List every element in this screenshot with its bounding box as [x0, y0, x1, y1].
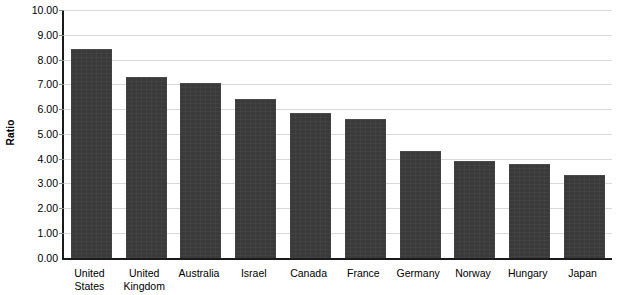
bar: [290, 113, 331, 258]
x-axis-category-label-line2: Kingdom: [117, 280, 172, 293]
y-axis-tick-label: 6.00: [16, 103, 58, 115]
bar: [454, 161, 495, 257]
bar: [71, 49, 112, 258]
x-axis-category-label: Japan: [555, 264, 610, 295]
x-axis-category-label-line1: Hungary: [508, 267, 548, 279]
bar: [400, 151, 441, 257]
x-axis-category-label-line1: Japan: [568, 267, 597, 279]
y-axis-tick-label: 7.00: [16, 78, 58, 90]
bar: [509, 164, 550, 258]
x-axis-line: [62, 258, 612, 261]
y-axis-tick-label: 3.00: [16, 177, 58, 189]
bar: [180, 83, 221, 257]
y-axis-tick-label: 0.00: [16, 252, 58, 264]
x-axis-category-label-line1: Germany: [397, 267, 440, 279]
y-axis-tick-label: 5.00: [16, 128, 58, 140]
x-axis-category-label-line1: Australia: [179, 267, 220, 279]
x-axis-category-label-line1: France: [347, 267, 380, 279]
x-axis-category-label-line1: Canada: [290, 267, 327, 279]
bar-slot: [502, 10, 557, 258]
bar: [235, 99, 276, 257]
x-axis-category-label: UnitedKingdom: [117, 264, 172, 295]
bar-chart: Ratio 10.009.008.007.006.005.004.003.002…: [0, 0, 619, 295]
x-axis-category-labels: UnitedStatesUnitedKingdomAustraliaIsrael…: [62, 264, 610, 295]
y-axis-tick-label: 1.00: [16, 227, 58, 239]
x-axis-category-label: France: [336, 264, 391, 295]
bar-slot: [283, 10, 338, 258]
bar-slot: [393, 10, 448, 258]
bar-slot: [174, 10, 229, 258]
bar-slot: [557, 10, 612, 258]
bar: [564, 175, 605, 258]
bar-slot: [64, 10, 119, 258]
x-axis-category-label-line1: United: [129, 267, 159, 279]
bar-series: [64, 10, 612, 258]
x-axis-category-label: Hungary: [500, 264, 555, 295]
bar-slot: [338, 10, 393, 258]
x-axis-category-label-line1: Israel: [241, 267, 267, 279]
y-axis-tick-label: 2.00: [16, 202, 58, 214]
y-axis-tick-label: 9.00: [16, 29, 58, 41]
x-axis-category-label-line1: Norway: [455, 267, 491, 279]
plot-area: [62, 10, 612, 260]
y-axis-tick-label: 4.00: [16, 153, 58, 165]
x-axis-category-label-line2: States: [62, 280, 117, 293]
bar-slot: [119, 10, 174, 258]
bar: [345, 119, 386, 257]
x-axis-category-label-line1: United: [74, 267, 104, 279]
y-axis-title-text: Ratio: [5, 120, 16, 146]
x-axis-category-label: Australia: [172, 264, 227, 295]
y-axis-tick-label: 10.00: [16, 4, 58, 16]
y-axis-tick-labels: 10.009.008.007.006.005.004.003.002.001.0…: [16, 0, 58, 265]
bar: [126, 77, 167, 257]
bar-slot: [228, 10, 283, 258]
x-axis-category-label: Canada: [281, 264, 336, 295]
y-axis-tick-label: 8.00: [16, 54, 58, 66]
x-axis-category-label: UnitedStates: [62, 264, 117, 295]
x-axis-category-label: Israel: [226, 264, 281, 295]
bar-slot: [448, 10, 503, 258]
x-axis-category-label: Germany: [391, 264, 446, 295]
x-axis-category-label: Norway: [446, 264, 501, 295]
